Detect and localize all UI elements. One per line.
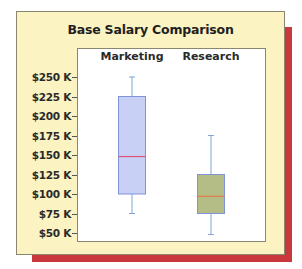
iqr-box (119, 97, 146, 195)
box-plots (0, 0, 302, 269)
iqr-box (198, 175, 225, 214)
box-marketing (119, 77, 146, 214)
box-research (198, 136, 225, 235)
